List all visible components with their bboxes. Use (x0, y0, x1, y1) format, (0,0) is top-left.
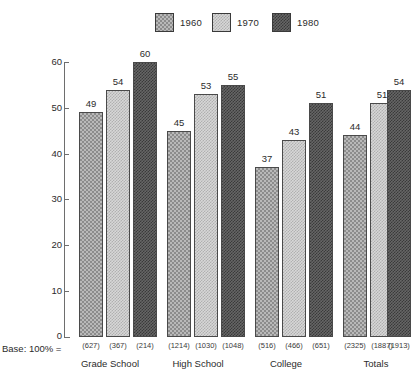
base-100-label: Base: 100% = (2, 343, 61, 354)
plot-area: 60 50 40 30 20 10 0 Base: 100% = 49 (627… (0, 0, 416, 385)
bar-value-1960-college: 37 (252, 154, 282, 164)
bar-1960-high-school[interactable] (167, 131, 191, 337)
y-tick-label-0: 0 (36, 331, 62, 341)
bar-1960-totals[interactable] (343, 135, 367, 337)
bar-value-1970-grade-school: 54 (103, 77, 133, 87)
bar-value-1960-totals: 44 (340, 122, 370, 132)
y-tick-40 (64, 154, 69, 155)
bar-base-1980-high-school: (1048) (216, 341, 250, 350)
chart-root: 1960 1970 1980 60 50 40 30 20 10 0 Base:… (0, 0, 416, 385)
y-tick-label-50: 50 (36, 103, 62, 113)
y-tick-10 (64, 291, 69, 292)
bar-1980-high-school[interactable] (221, 85, 245, 337)
group-label-totals: Totals (321, 358, 416, 369)
y-tick-label-20: 20 (36, 240, 62, 250)
y-tick-0 (64, 337, 70, 338)
bar-value-1960-grade-school: 49 (76, 99, 106, 109)
y-axis-line (64, 62, 65, 338)
y-tick-label-30: 30 (36, 194, 62, 204)
bar-1960-grade-school[interactable] (79, 112, 103, 337)
bar-value-1980-totals: 54 (384, 77, 414, 87)
bar-1960-college[interactable] (255, 167, 279, 337)
bar-base-1980-totals: (1913) (382, 341, 416, 350)
bar-value-1970-college: 43 (279, 127, 309, 137)
y-tick-label-60: 60 (36, 57, 62, 67)
bar-value-1980-high-school: 55 (218, 72, 248, 82)
bar-1980-college[interactable] (309, 103, 333, 337)
y-tick-50 (64, 108, 69, 109)
bar-1970-grade-school[interactable] (106, 90, 130, 337)
y-tick-label-10: 10 (36, 286, 62, 296)
y-tick-20 (64, 245, 69, 246)
bar-1970-college[interactable] (282, 140, 306, 337)
bar-value-1970-high-school: 53 (191, 81, 221, 91)
bar-value-1960-high-school: 45 (164, 118, 194, 128)
bar-1980-grade-school[interactable] (133, 62, 157, 337)
bar-base-1980-college: (651) (304, 341, 338, 350)
bar-base-1980-grade-school: (214) (128, 341, 162, 350)
bar-1980-totals[interactable] (387, 90, 411, 337)
y-tick-30 (64, 199, 69, 200)
bar-1970-high-school[interactable] (194, 94, 218, 337)
bar-value-1980-college: 51 (306, 90, 336, 100)
y-tick-label-40: 40 (36, 149, 62, 159)
y-tick-60 (64, 62, 69, 63)
bar-value-1980-grade-school: 60 (130, 49, 160, 59)
